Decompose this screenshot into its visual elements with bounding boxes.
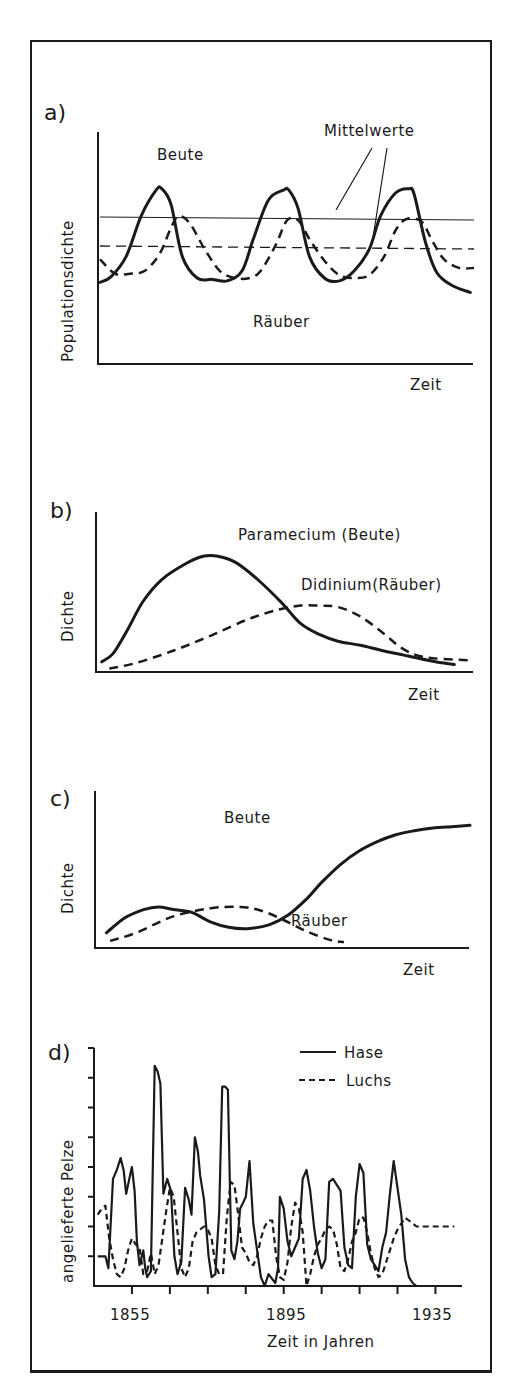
panel-d-ylabel: angelieferte Pelze (59, 1139, 77, 1283)
panel-d-tick-1855: 1855 (110, 1306, 150, 1324)
panel-a-mean-raeuber (100, 246, 474, 249)
panel-b-beute-label: Paramecium (Beute) (238, 526, 401, 544)
panel-b-label: b) (50, 498, 73, 523)
panel-d-x-ticks (132, 1286, 436, 1294)
panel-a-raeuber-line (100, 216, 474, 279)
panel-d-hase-line (98, 1066, 436, 1286)
panel-c-label: c) (50, 786, 71, 811)
panel-d-tick-1895: 1895 (266, 1306, 306, 1324)
legend-hase-label: Hase (344, 1044, 384, 1062)
panel-b-raeuber-label: Didinium(Räuber) (301, 576, 442, 594)
panel-b-ylabel: Dichte (59, 590, 77, 642)
panel-a-label: a) (44, 100, 66, 125)
panel-d-tick-1935: 1935 (412, 1306, 452, 1324)
panel-d: d) angelieferte Pelze 1855 1895 1935 Zei… (48, 1040, 462, 1351)
panel-a-ylabel: Populationsdichte (59, 220, 77, 362)
panel-a-raeuber-label: Räuber (253, 313, 310, 331)
panel-a-xlabel: Zeit (410, 376, 442, 394)
panel-a-mittelwerte-label: Mittelwerte (324, 122, 415, 140)
panel-b-xlabel: Zeit (408, 686, 440, 704)
panel-a-beute-label: Beute (157, 146, 204, 164)
panel-a-beute-line (100, 187, 470, 293)
panel-c-beute-label: Beute (224, 809, 271, 827)
panel-c-xlabel: Zeit (403, 961, 435, 979)
panel-c-beute-line (106, 825, 470, 933)
panel-c-ylabel: Dichte (59, 862, 77, 914)
panel-a: a) Populationsdichte Zeit Beute Räuber M… (44, 100, 474, 394)
panel-b: b) Dichte Zeit Paramecium (Beute) Didini… (50, 498, 473, 704)
panel-d-xlabel: Zeit in Jahren (267, 1333, 374, 1351)
panel-a-pointer-solid (336, 148, 372, 210)
figure-canvas: a) Populationsdichte Zeit Beute Räuber M… (0, 0, 518, 1397)
legend-luchs-label: Luchs (346, 1072, 392, 1090)
panel-d-label: d) (48, 1040, 71, 1065)
panel-c: c) Dichte Zeit Beute Räuber (50, 786, 470, 979)
